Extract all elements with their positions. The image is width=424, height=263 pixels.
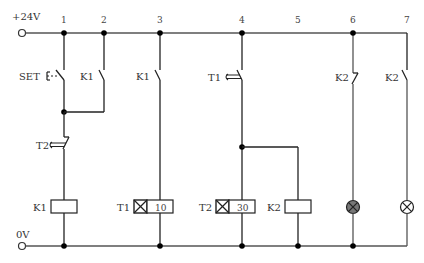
junction-node: [157, 243, 163, 249]
rung-column-5: K2: [242, 147, 311, 249]
set-pushbutton-contact: SET: [19, 70, 64, 112]
column-number-4: 4: [239, 15, 245, 25]
k2-coil: K2: [267, 200, 311, 213]
lamp-6: [347, 201, 360, 214]
t1-contact-label: T1: [208, 72, 221, 83]
k1-coil-label: K1: [33, 202, 47, 213]
column-numbers: 1 2 3 4 5 6 7: [61, 15, 410, 25]
t2-timer-coil: 30 T2: [199, 200, 255, 213]
k2-nc-contact-label: K2: [335, 72, 349, 83]
rung-column-7: K2: [385, 33, 414, 246]
column-number-7: 7: [404, 15, 410, 25]
k1-coil: K1: [33, 200, 77, 213]
rung-column-6: K2: [335, 30, 360, 249]
junction-node: [239, 30, 245, 36]
junction-node: [61, 30, 67, 36]
bottom-rail: 0V: [16, 229, 407, 250]
column-number-5: 5: [295, 15, 301, 25]
rung-column-2: K1: [64, 30, 107, 112]
positive-terminal-icon: [19, 30, 26, 37]
t2-timed-nc-contact: T2: [36, 112, 69, 200]
relay-coil-icon: [51, 200, 77, 213]
t1-timed-no-contact: T1: [208, 72, 241, 83]
junction-node: [350, 243, 356, 249]
ground-terminal-icon: [19, 243, 26, 250]
t2-contact-label: T2: [36, 140, 49, 151]
lamp-7: [401, 201, 414, 214]
rung-column-1: SET T2 K1: [19, 30, 77, 249]
ladder-diagram: +24V 0V 1 2 3 4 5 6 7 SET: [0, 0, 424, 263]
junction-node: [295, 243, 301, 249]
positive-rail-label: +24V: [12, 11, 41, 22]
column-number-1: 1: [61, 15, 67, 25]
relay-coil-icon: [285, 200, 311, 213]
t1-preset-value: 10: [155, 203, 167, 213]
column-number-3: 3: [157, 15, 163, 25]
junction-node: [157, 30, 163, 36]
column-number-2: 2: [101, 15, 107, 25]
junction-node: [239, 243, 245, 249]
junction-node: [101, 30, 107, 36]
junction-node: [350, 30, 356, 36]
rung-column-3: K1 10 T1: [117, 30, 173, 249]
ground-rail-label: 0V: [16, 229, 30, 240]
top-rail: +24V: [12, 11, 407, 37]
k2-coil-label: K2: [267, 202, 281, 213]
t1-timer-coil: 10 T1: [117, 200, 173, 213]
k1-contact-label: K1: [136, 71, 150, 82]
junction-node: [61, 243, 67, 249]
rung-column-4: T1 30 T2: [199, 30, 255, 249]
t2-preset-value: 30: [237, 203, 249, 213]
column-number-6: 6: [350, 15, 356, 25]
set-label: SET: [19, 71, 40, 82]
t2-coil-label: T2: [199, 202, 212, 213]
k1-hold-contact-label: K1: [80, 71, 94, 82]
k2-no-contact-label: K2: [385, 72, 399, 83]
t1-coil-label: T1: [117, 202, 130, 213]
